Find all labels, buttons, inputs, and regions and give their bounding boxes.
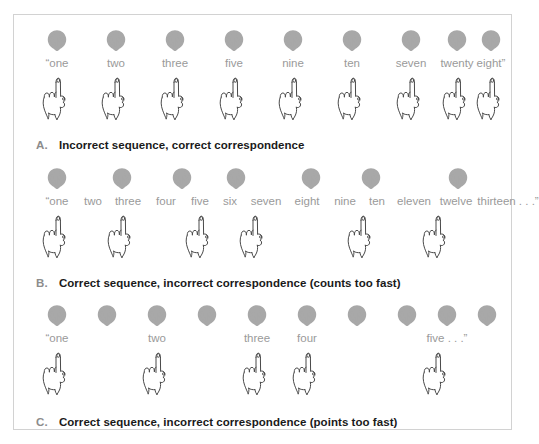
pointing-hand-icon	[105, 213, 139, 261]
number-word-label: thirteen . . .”	[477, 193, 538, 209]
scallop-shell-icon	[396, 304, 418, 326]
pointing-hand-icon	[240, 350, 274, 398]
shell-slot	[436, 304, 458, 326]
hand-slot	[474, 75, 508, 123]
number-word-label: twelve	[440, 193, 473, 209]
hand-strip-a	[14, 75, 511, 125]
scallop-shell-icon	[164, 29, 186, 51]
number-word-label: three	[162, 55, 188, 71]
scallop-shell-icon	[446, 29, 468, 51]
caption-c-letter: C.	[36, 416, 48, 428]
shell-slot	[223, 29, 245, 51]
caption-c: C.Correct sequence, incorrect correspond…	[36, 416, 397, 428]
number-word-label: eleven	[397, 193, 431, 209]
number-word-label: five	[191, 193, 209, 209]
scallop-shell-icon	[282, 29, 304, 51]
hand-slot	[276, 75, 310, 123]
hand-slot	[105, 213, 139, 261]
number-word-label: seven	[396, 55, 427, 71]
shell-strip-c	[14, 304, 511, 330]
hand-slot	[240, 350, 274, 398]
hand-slot	[40, 75, 74, 123]
caption-b-text: Correct sequence, incorrect corresponden…	[59, 277, 401, 289]
scallop-shell-icon	[223, 29, 245, 51]
number-word-label: three	[115, 193, 141, 209]
number-word-label: ten	[369, 193, 385, 209]
scallop-shell-icon	[46, 167, 68, 189]
shell-slot	[196, 304, 218, 326]
shell-slot	[360, 167, 382, 189]
shell-slot	[396, 304, 418, 326]
hand-slot	[345, 213, 379, 261]
pointing-hand-icon	[420, 213, 454, 261]
scallop-shell-icon	[246, 304, 268, 326]
number-word-label: five	[225, 55, 243, 71]
shell-slot	[46, 29, 68, 51]
scallop-shell-icon	[296, 304, 318, 326]
number-word-label: four	[156, 193, 176, 209]
shell-slot	[400, 29, 422, 51]
scallop-shell-icon	[436, 304, 458, 326]
number-word-label: “one	[45, 193, 68, 209]
hand-slot	[99, 75, 133, 123]
number-word-label: five . . .”	[427, 330, 468, 346]
scallop-shell-icon	[300, 167, 322, 189]
scallop-shell-icon	[360, 167, 382, 189]
number-word-label: four	[297, 330, 317, 346]
hand-slot	[290, 350, 324, 398]
scallop-shell-icon	[146, 304, 168, 326]
scallop-shell-icon	[96, 304, 118, 326]
scallop-shell-icon	[196, 304, 218, 326]
shell-slot	[341, 29, 363, 51]
word-strip-a: “onetwothreefiveninetenseventwentyeight”	[14, 55, 511, 75]
number-word-label: three	[244, 330, 270, 346]
caption-c-text: Correct sequence, incorrect corresponden…	[59, 416, 398, 428]
figure-row-c: “onetwothreefourfive . . .”	[14, 304, 511, 400]
figure-row-b: “onetwothreefourfivesixseveneightnineten…	[14, 167, 511, 263]
pointing-hand-icon	[335, 75, 369, 123]
number-word-label: seven	[251, 193, 282, 209]
shell-slot	[447, 167, 469, 189]
hand-slot	[217, 75, 251, 123]
shell-slot	[300, 167, 322, 189]
shell-slot	[346, 304, 368, 326]
shell-slot	[171, 167, 193, 189]
word-strip-c: “onetwothreefourfive . . .”	[14, 330, 511, 350]
number-word-label: “one	[45, 55, 68, 71]
hand-strip-b	[14, 213, 511, 263]
number-word-label: six	[223, 193, 237, 209]
pointing-hand-icon	[40, 75, 74, 123]
shell-slot	[246, 304, 268, 326]
word-strip-b: “onetwothreefourfivesixseveneightnineten…	[14, 193, 511, 213]
number-word-label: eight	[295, 193, 320, 209]
shell-slot	[164, 29, 186, 51]
hand-slot	[40, 350, 74, 398]
scallop-shell-icon	[225, 167, 247, 189]
pointing-hand-icon	[237, 213, 271, 261]
shell-slot	[105, 29, 127, 51]
shell-slot	[146, 304, 168, 326]
scallop-shell-icon	[400, 29, 422, 51]
shell-slot	[446, 29, 468, 51]
number-word-label: ten	[344, 55, 360, 71]
caption-a-text: Incorrect sequence, correct corresponden…	[59, 139, 305, 151]
hand-slot	[237, 213, 271, 261]
hand-slot	[40, 213, 74, 261]
pointing-hand-icon	[183, 213, 217, 261]
shell-slot	[96, 304, 118, 326]
scallop-shell-icon	[480, 29, 502, 51]
scallop-shell-icon	[346, 304, 368, 326]
pointing-hand-icon	[474, 75, 508, 123]
shell-slot	[46, 304, 68, 326]
pointing-hand-icon	[40, 350, 74, 398]
number-word-label: eight”	[477, 55, 506, 71]
pointing-hand-icon	[217, 75, 251, 123]
scallop-shell-icon	[46, 29, 68, 51]
pointing-hand-icon	[290, 350, 324, 398]
shell-slot	[282, 29, 304, 51]
hand-slot	[158, 75, 192, 123]
hand-slot	[420, 350, 454, 398]
number-word-label: nine	[334, 193, 356, 209]
hand-slot	[183, 213, 217, 261]
pointing-hand-icon	[276, 75, 310, 123]
